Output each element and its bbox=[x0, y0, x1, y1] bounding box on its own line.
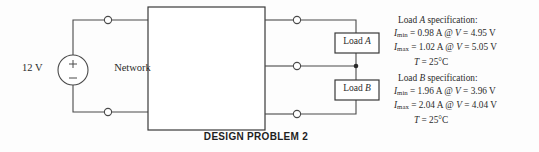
load-a-spec-title: Load A specification: bbox=[394, 14, 497, 27]
terminal-right-bottom bbox=[293, 110, 300, 117]
design-problem-figure: 12 V Network Load A Load B DESIGN PROBLE… bbox=[0, 0, 539, 152]
load-b-temperature-row: T = 25°C bbox=[394, 114, 497, 127]
load-a-prefix: Load bbox=[343, 36, 365, 46]
load-a-imin-row: Imin = 0.98 A @ V = 4.95 V bbox=[394, 27, 497, 41]
load-b-name: B bbox=[365, 83, 371, 93]
load-b-imax-voltage-value: = 4.04 V bbox=[462, 100, 497, 110]
load-a-imax-value: = 1.02 A @ bbox=[409, 42, 456, 52]
load-a-imax-voltage-value: = 5.05 V bbox=[462, 42, 497, 52]
load-a-label: Load A bbox=[335, 36, 379, 46]
terminal-left-top bbox=[104, 16, 111, 23]
load-a-imax-subscript: max bbox=[397, 46, 409, 53]
network-label: Network bbox=[0, 62, 265, 73]
load-a-specification-block: Load A specification: Imin = 0.98 A @ V … bbox=[394, 14, 497, 69]
terminal-left-bottom bbox=[104, 108, 111, 115]
load-b-spec-title: Load B specification: bbox=[394, 72, 497, 85]
wire-terminal-bottom-to-load-b bbox=[301, 100, 356, 114]
load-b-prefix: Load bbox=[343, 83, 365, 93]
load-a-imin-value: = 0.98 A @ bbox=[408, 28, 455, 38]
load-a-temperature-value: = 25°C bbox=[419, 57, 448, 67]
load-a-temperature-row: T = 25°C bbox=[394, 56, 497, 69]
load-b-imin-value: = 1.96 A @ bbox=[408, 86, 455, 96]
load-b-temperature-value: = 25°C bbox=[419, 115, 448, 125]
wire-source-top bbox=[73, 20, 104, 55]
load-b-imax-value: = 2.04 A @ bbox=[409, 100, 456, 110]
wire-source-bottom bbox=[73, 85, 104, 112]
load-a-name: A bbox=[365, 36, 371, 46]
load-b-spec-title-suffix: specification: bbox=[425, 73, 477, 83]
terminal-right-top bbox=[293, 16, 300, 23]
junction-node-dot bbox=[354, 64, 359, 69]
load-b-label: Load B bbox=[335, 83, 379, 93]
load-b-imax-row: Imax = 2.04 A @ V = 4.04 V bbox=[394, 99, 497, 113]
load-b-imin-voltage-value: = 3.96 V bbox=[461, 86, 496, 96]
figure-caption: DESIGN PROBLEM 2 bbox=[150, 131, 362, 142]
load-a-spec-title-prefix: Load bbox=[398, 15, 419, 25]
load-b-spec-title-prefix: Load bbox=[398, 73, 419, 83]
load-a-imin-voltage-value: = 4.95 V bbox=[461, 28, 496, 38]
load-b-imax-subscript: max bbox=[397, 104, 409, 111]
load-b-imin-subscript: min bbox=[397, 89, 408, 96]
load-a-imax-row: Imax = 1.02 A @ V = 5.05 V bbox=[394, 41, 497, 55]
load-b-specification-block: Load B specification: Imin = 1.96 A @ V … bbox=[394, 72, 497, 127]
load-a-imin-subscript: min bbox=[397, 31, 408, 38]
load-b-imin-row: Imin = 1.96 A @ V = 3.96 V bbox=[394, 85, 497, 99]
terminal-right-middle bbox=[293, 62, 300, 69]
load-a-spec-title-suffix: specification: bbox=[425, 15, 477, 25]
wire-terminal-top-to-load-a bbox=[301, 20, 356, 33]
